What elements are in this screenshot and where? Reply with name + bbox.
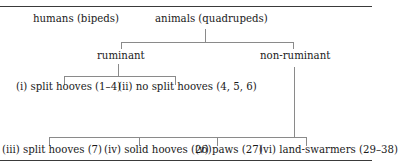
node-split-hooves-ruminant: (i) split hooves (1–4) <box>16 81 121 93</box>
connector <box>121 42 122 49</box>
node-no-split-hooves: (ii) no split hooves (4, 5, 6) <box>118 81 257 93</box>
connector <box>49 137 307 138</box>
node-non-ruminant: non-ruminant <box>260 50 330 62</box>
connector <box>118 64 119 76</box>
node-paws: (v) paws (27) <box>195 144 263 156</box>
node-split-hooves-non-ruminant: (iii) split hooves (7) <box>2 144 102 156</box>
node-land-swarmers: (vi) land-swarmers (29–38) <box>259 144 398 156</box>
connector <box>293 42 294 49</box>
connector <box>294 67 295 138</box>
bottom-rule <box>0 160 372 161</box>
connector <box>121 42 294 43</box>
connector <box>205 29 206 42</box>
node-humans: humans (bipeds) <box>33 13 119 25</box>
connector <box>64 76 176 77</box>
node-animals: animals (quadrupeds) <box>155 13 268 25</box>
node-ruminant: ruminant <box>97 50 145 62</box>
top-rule <box>0 6 372 7</box>
